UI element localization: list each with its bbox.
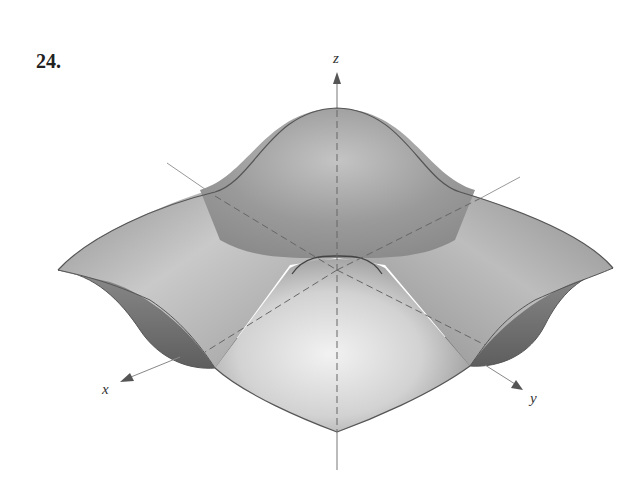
x-axis-label: x	[101, 381, 109, 397]
surface-figure: z x y	[0, 0, 637, 493]
z-axis-label: z	[332, 50, 339, 66]
y-axis-front	[485, 365, 515, 384]
x-axis-front	[126, 357, 180, 379]
z-axis-arrowhead	[333, 72, 341, 84]
y-axis-label: y	[528, 390, 537, 406]
y-axis-back-segment	[481, 177, 520, 198]
y-axis-arrowhead	[511, 380, 523, 390]
x-axis-arrowhead	[120, 373, 134, 382]
